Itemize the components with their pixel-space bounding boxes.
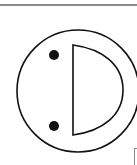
- circle-d-symbol-diagram: [0, 0, 137, 165]
- upper-dot: [49, 50, 59, 60]
- lower-dot: [49, 121, 59, 131]
- corner-box-edge: [134, 148, 137, 165]
- d-half-disc-shape: [73, 45, 123, 135]
